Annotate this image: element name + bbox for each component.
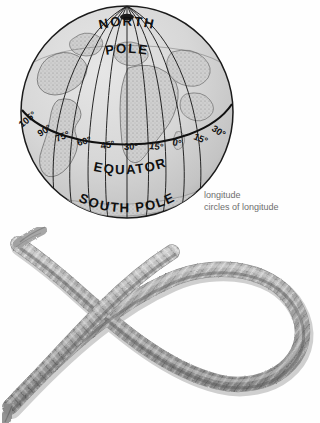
longitude-label: 30° bbox=[124, 141, 139, 152]
north-pole-label-line2: POLE bbox=[104, 41, 150, 58]
rope-crossing-strand bbox=[7, 250, 175, 410]
rope-loop-figure: loop (definition 1) bbox=[0, 222, 320, 423]
caption-headword: longitude bbox=[204, 190, 279, 202]
globe-caption: longitude circles of longitude bbox=[204, 190, 279, 213]
longitude-label: 15° bbox=[149, 140, 164, 152]
longitude-label: 45° bbox=[100, 138, 116, 151]
rope-frayed-end-lower bbox=[4, 406, 12, 422]
rope-photograph bbox=[0, 222, 320, 423]
globe-longitude-figure: NORTH POLE EQUATOR SOUTH POLE 105° 90° 7… bbox=[0, 0, 320, 228]
caption-gloss: circles of longitude bbox=[204, 202, 279, 214]
